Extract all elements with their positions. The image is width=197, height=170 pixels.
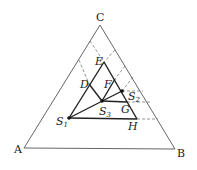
point-s2 xyxy=(120,89,124,93)
label-s2: S2 xyxy=(128,90,141,104)
point-s3 xyxy=(100,99,104,103)
label-h: H xyxy=(127,120,138,133)
outer-triangle xyxy=(24,25,175,149)
label-c: C xyxy=(96,11,104,24)
label-e: E xyxy=(94,55,103,68)
label-f: F xyxy=(103,78,112,91)
label-s1: S1 xyxy=(56,115,68,129)
label-g: G xyxy=(121,103,130,116)
label-s3: S3 xyxy=(99,105,112,119)
label-d: D xyxy=(79,78,89,91)
ternary-diagram: C A B E D F G H S1 S3 S2 xyxy=(0,0,197,170)
label-a: A xyxy=(13,143,23,156)
point-s1 xyxy=(67,116,71,120)
label-b: B xyxy=(177,147,185,160)
